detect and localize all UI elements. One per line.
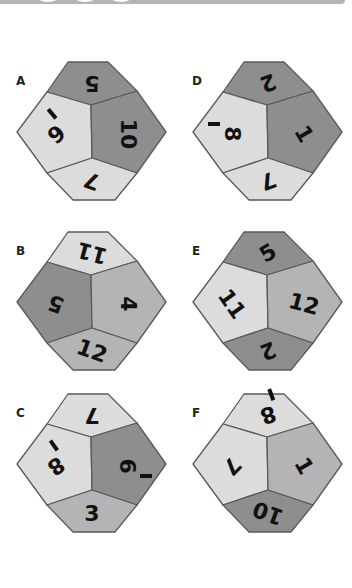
- dodecahedron-die: 56107: [0, 50, 176, 220]
- die-face-right: 10: [91, 91, 166, 173]
- dodecahedron-die: 87110: [176, 382, 352, 552]
- ring-decoration: [72, 0, 98, 2]
- face-number: 10: [116, 119, 141, 150]
- orientation-mark: [140, 474, 152, 478]
- ring-decoration: [35, 0, 61, 2]
- face-number: 4: [116, 296, 141, 311]
- die-face-right: 12: [267, 261, 342, 343]
- die-e: E511122: [176, 220, 352, 390]
- die-f: F87110: [176, 382, 352, 552]
- die-face-left: 7: [193, 424, 268, 505]
- face-number: 7: [84, 403, 99, 428]
- die-face-right: 4: [91, 261, 166, 343]
- ring-decoration: [108, 0, 134, 2]
- face-number: 9: [116, 458, 141, 473]
- dodecahedron-die: 7893: [0, 382, 176, 552]
- dodecahedron-die: 511122: [176, 220, 352, 390]
- die-face-right: 9: [91, 423, 166, 505]
- face-number: 5: [84, 71, 99, 96]
- die-face-left: 6: [17, 92, 92, 173]
- die-face-right: 1: [267, 423, 342, 505]
- die-a: A56107: [0, 50, 176, 220]
- face-number: 8: [220, 126, 245, 141]
- dodecahedron-die: 2817: [176, 50, 352, 220]
- die-d: D2817: [176, 50, 352, 220]
- die-face-left: 8: [193, 92, 268, 173]
- orientation-mark: [208, 122, 220, 126]
- dodecahedron-die: 115412: [0, 220, 176, 390]
- die-face-left: 8: [17, 424, 92, 505]
- die-b: B115412: [0, 220, 176, 390]
- die-face-left: 5: [17, 262, 92, 343]
- face-number: 3: [84, 501, 99, 526]
- die-c: C7893: [0, 382, 176, 552]
- die-face-left: 11: [193, 262, 268, 343]
- die-face-right: 1: [267, 91, 342, 173]
- top-toolbar-strip: [0, 0, 345, 4]
